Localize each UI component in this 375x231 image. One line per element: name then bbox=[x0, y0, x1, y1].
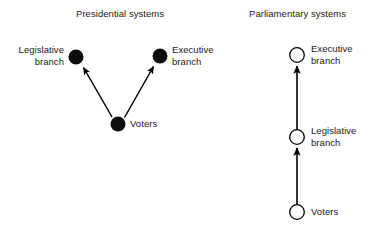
node-label-executive-presidential: Executive branch bbox=[172, 44, 252, 67]
edge-voters-to-legislative-presidential bbox=[84, 68, 113, 118]
diagram-graphics bbox=[0, 0, 375, 231]
node-executive-parliamentary bbox=[290, 48, 305, 63]
node-label-legislative-presidential: Legislative branch bbox=[0, 44, 64, 67]
node-label-voters-presidential: Voters bbox=[130, 118, 190, 130]
node-voters-presidential bbox=[111, 117, 126, 132]
panel-title-parliamentary: Parliamentary systems bbox=[249, 8, 346, 19]
node-label-voters-parliamentary: Voters bbox=[311, 206, 371, 218]
node-legislative-parliamentary bbox=[290, 130, 305, 145]
node-label-legislative-parliamentary: Legislative branch bbox=[311, 125, 375, 148]
node-label-executive-parliamentary: Executive branch bbox=[311, 43, 375, 66]
node-legislative-presidential bbox=[69, 50, 84, 65]
node-executive-presidential bbox=[153, 49, 168, 64]
edge-voters-to-executive-presidential bbox=[125, 67, 154, 118]
node-voters-parliamentary bbox=[290, 205, 305, 220]
panel-title-presidential: Presidential systems bbox=[76, 8, 164, 19]
diagram-figure: Presidential systems Parliamentary syste… bbox=[0, 0, 375, 231]
panel-parliamentary bbox=[290, 48, 305, 220]
